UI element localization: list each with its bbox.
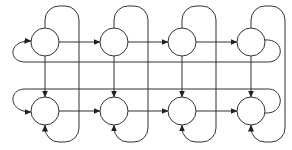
node-r1c1 [31,28,59,56]
node-r2c4 [237,97,265,125]
node-r1c2 [100,28,128,56]
node-r1c3 [168,28,196,56]
node-r2c3 [168,97,196,125]
node-r1c4 [237,28,265,56]
node-r2c1 [31,97,59,125]
node-r2c2 [100,97,128,125]
grid-graph-diagram [0,0,292,150]
